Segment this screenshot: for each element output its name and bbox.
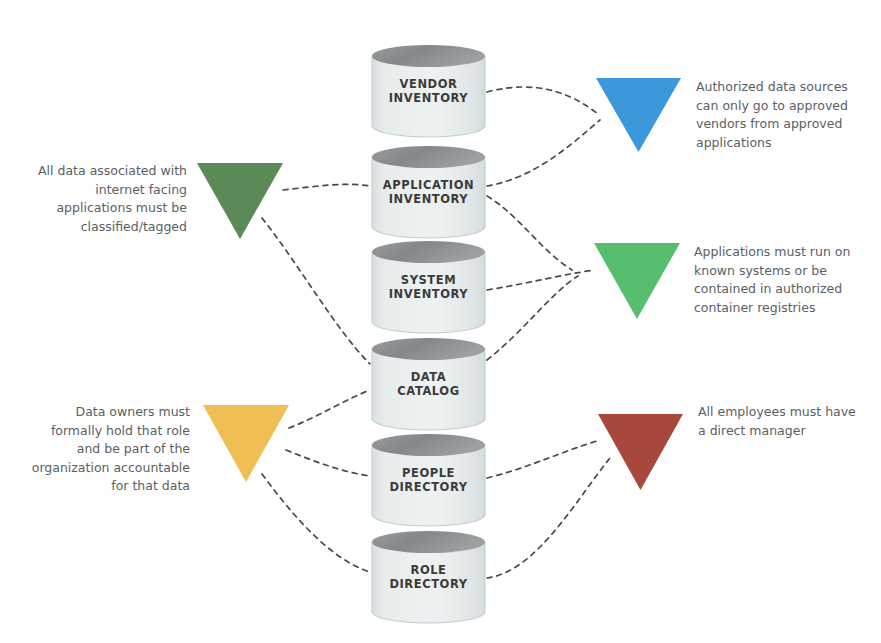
policy-triangle-authorized-sources-policy[interactable] [596, 78, 681, 152]
connector-catalog-to-known [487, 276, 578, 360]
database-vendor-inventory[interactable] [372, 45, 485, 137]
connector-classification-to-application [283, 184, 370, 190]
policy-text-direct-manager-policy: All employees must have a direct manager [698, 403, 873, 440]
database-top-ellipse [372, 338, 485, 360]
policy-triangle-data-owner-policy[interactable] [203, 405, 289, 482]
policy-triangle-direct-manager-policy[interactable] [598, 414, 683, 490]
connector-classification-to-catalog [262, 218, 370, 364]
database-body [372, 445, 485, 526]
connector-owner-to-role [262, 474, 370, 572]
database-role-directory[interactable] [372, 531, 485, 623]
database-body [372, 349, 485, 430]
database-top-ellipse [372, 241, 485, 263]
database-top-ellipse [372, 531, 485, 553]
database-body [372, 252, 485, 333]
database-people-directory[interactable] [372, 434, 485, 526]
policy-text-known-systems-policy: Applications must run on known systems o… [694, 243, 872, 317]
database-top-ellipse [372, 146, 485, 168]
database-body [372, 56, 485, 137]
connector-application-to-authorized [487, 120, 600, 186]
policy-text-data-owner-policy: Data owners must formally hold that role… [25, 403, 190, 496]
database-top-ellipse [372, 45, 485, 67]
database-data-catalog[interactable] [372, 338, 485, 430]
connector-application-to-known [487, 196, 572, 270]
database-application-inventory[interactable] [372, 146, 485, 238]
connector-system-to-known [487, 270, 594, 290]
database-system-inventory[interactable] [372, 241, 485, 333]
database-top-ellipse [372, 434, 485, 456]
connector-owner-to-people [286, 450, 370, 476]
policy-text-classification-policy: All data associated with internet facing… [35, 162, 187, 236]
diagram-canvas: VENDOR INVENTORYAPPLICATION INVENTORYSYS… [0, 0, 881, 643]
connector-people-to-manager [487, 440, 600, 478]
connector-role-to-manager [487, 458, 610, 578]
database-body [372, 157, 485, 238]
policy-triangle-known-systems-policy[interactable] [594, 243, 680, 319]
policy-text-authorized-sources-policy: Authorized data sources can only go to a… [696, 78, 871, 152]
connector-owner-to-catalog [289, 390, 370, 428]
database-body [372, 542, 485, 623]
connector-vendor-to-authorized [487, 87, 598, 114]
